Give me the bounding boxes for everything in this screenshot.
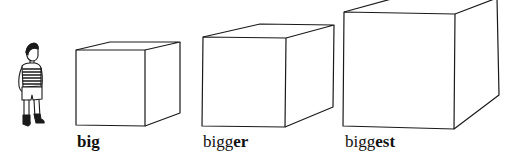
label-biggest-base: bigg [345,132,375,151]
label-big: big [77,133,100,150]
label-bigger-base: bigg [203,132,233,151]
label-bigger: bigger [203,133,248,150]
label-bigger-suffix: er [233,132,248,151]
label-big-text: big [77,132,100,151]
label-biggest: biggest [345,133,395,150]
cube-small [76,42,180,126]
boy-icon [19,43,44,126]
cube-large [343,0,499,129]
label-biggest-suffix: est [375,132,395,151]
cube-medium [202,24,334,127]
